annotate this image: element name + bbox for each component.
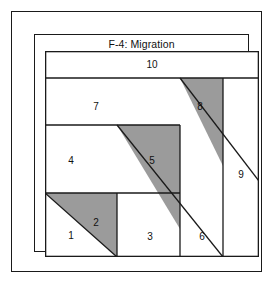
piece-number-label-9: 9	[238, 169, 244, 180]
piece-number-label-10: 10	[146, 59, 158, 70]
piece-number-label-2: 2	[93, 217, 99, 228]
piece-number-label-1: 1	[68, 230, 74, 241]
piece-number-label-7: 7	[93, 101, 99, 112]
title-bar: F-4: Migration	[35, 35, 248, 52]
page-title: F-4: Migration	[108, 38, 174, 50]
piece-number-label-3: 3	[147, 231, 153, 242]
pattern-piece-9	[223, 78, 259, 257]
pattern-card-screenshot: F-4: Migration Foundation Paper Piecing …	[0, 0, 273, 283]
pattern-piece-8	[180, 78, 223, 166]
pattern-piece-4	[45, 125, 117, 193]
piece-number-label-6: 6	[199, 231, 205, 242]
outer-frame: F-4: Migration Foundation Paper Piecing …	[11, 11, 262, 272]
pattern-piece-6	[180, 193, 223, 257]
pattern-svg: 12345678910	[45, 51, 259, 257]
quilt-block-diagram: 12345678910	[45, 51, 259, 257]
piece-number-label-8: 8	[197, 101, 203, 112]
piece-number-label-4: 4	[68, 155, 74, 166]
piece-number-label-5: 5	[149, 155, 155, 166]
pattern-piece-7	[45, 78, 180, 125]
